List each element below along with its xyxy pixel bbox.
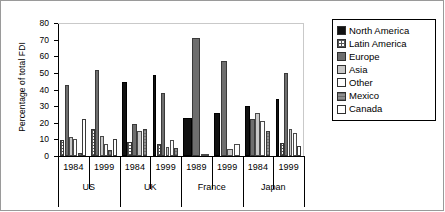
- bar: [95, 70, 99, 156]
- legend-swatch-icon: [337, 26, 346, 35]
- x-country-label: US: [58, 182, 120, 193]
- y-tick-label: 40: [23, 86, 49, 94]
- bar-group: [273, 23, 304, 156]
- x-group-separator: [304, 156, 305, 207]
- bar: [153, 75, 157, 156]
- bar: [113, 139, 117, 156]
- x-year-label: 1999: [89, 162, 120, 173]
- bar: [91, 129, 95, 156]
- bar: [137, 131, 142, 156]
- bar: [250, 119, 255, 156]
- legend-item: Asia: [337, 63, 432, 76]
- legend-item-label: North America: [349, 26, 409, 36]
- legend-item-label: Canada: [349, 104, 382, 114]
- bar: [280, 143, 284, 156]
- bar: [214, 113, 220, 156]
- bar: [60, 140, 64, 156]
- bar-group: [58, 23, 89, 156]
- bar: [201, 154, 209, 156]
- bar: [73, 139, 77, 156]
- legend-item: Canada: [337, 103, 432, 116]
- x-year-label: 1989: [181, 162, 212, 173]
- bar: [227, 149, 233, 156]
- legend-swatch-icon: [337, 52, 346, 61]
- bar: [284, 73, 288, 156]
- bar: [245, 106, 250, 156]
- legend-item: Mexico: [337, 89, 432, 102]
- legend-item-label: Other: [349, 78, 373, 88]
- bar: [69, 137, 73, 156]
- bar-group: [120, 23, 151, 156]
- bar: [166, 147, 170, 156]
- legend-item: Other: [337, 76, 432, 89]
- bar: [127, 142, 132, 156]
- bar: [108, 150, 112, 156]
- y-tick-label: 20: [23, 119, 49, 127]
- bar: [192, 38, 200, 156]
- x-year-label: 1999: [212, 162, 243, 173]
- x-country-label: UK: [120, 182, 182, 193]
- bar: [221, 61, 227, 156]
- bar: [143, 129, 148, 156]
- legend-item: Europe: [337, 50, 432, 63]
- bar: [234, 144, 240, 156]
- bar: [174, 148, 178, 156]
- legend-item-label: Europe: [349, 52, 380, 62]
- bar: [104, 144, 108, 156]
- bar: [297, 146, 301, 156]
- bar: [276, 99, 280, 156]
- y-tick-label: 50: [23, 69, 49, 77]
- legend-item-label: Mexico: [349, 91, 379, 101]
- bar: [157, 144, 161, 156]
- legend-swatch-icon: [337, 78, 346, 87]
- bar: [183, 118, 191, 156]
- bar: [289, 129, 293, 156]
- bar-group: [89, 23, 120, 156]
- y-tick-label: 60: [23, 52, 49, 60]
- bar-group: [243, 23, 274, 156]
- bar: [65, 85, 69, 156]
- bar: [170, 140, 174, 156]
- legend-item: Latin America: [337, 37, 432, 50]
- bar: [266, 131, 271, 156]
- bar: [293, 133, 297, 156]
- y-tick-label: 70: [23, 36, 49, 44]
- chart-legend: North AmericaLatin AmericaEuropeAsiaOthe…: [332, 19, 436, 121]
- bar: [132, 124, 137, 156]
- x-year-label: 1999: [150, 162, 181, 173]
- legend-swatch-icon: [337, 105, 346, 114]
- legend-item-label: Asia: [349, 65, 367, 75]
- y-tick-label: 0: [23, 152, 49, 160]
- y-tick-label: 80: [23, 19, 49, 27]
- x-country-label: Japan: [243, 182, 305, 193]
- bar: [260, 121, 265, 156]
- y-tick-label: 10: [23, 135, 49, 143]
- legend-item-label: Latin America: [349, 39, 407, 49]
- chart-frame: Percentage of total FDI 8070605040302010…: [0, 0, 444, 211]
- bar-group: [150, 23, 181, 156]
- y-tick-label: 30: [23, 102, 49, 110]
- x-year-label: 1984: [243, 162, 274, 173]
- legend-swatch-icon: [337, 39, 346, 48]
- bar: [161, 93, 165, 156]
- x-country-label: France: [181, 182, 243, 193]
- bar: [78, 153, 82, 156]
- bar-group: [212, 23, 243, 156]
- x-year-label: 1999: [273, 162, 304, 173]
- bar: [255, 113, 260, 156]
- bar-group: [181, 23, 212, 156]
- legend-item: North America: [337, 24, 432, 37]
- bar: [122, 82, 127, 156]
- bar: [82, 119, 86, 156]
- bar: [100, 136, 104, 156]
- x-year-label: 1984: [58, 162, 89, 173]
- x-year-label: 1984: [120, 162, 151, 173]
- legend-swatch-icon: [337, 92, 346, 101]
- legend-swatch-icon: [337, 65, 346, 74]
